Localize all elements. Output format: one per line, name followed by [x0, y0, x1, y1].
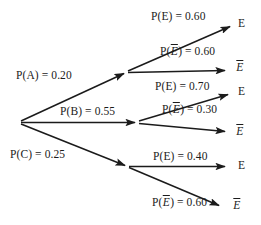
edge-label-branch-c: P(C) = 0.25: [10, 148, 65, 160]
terminal-node-ebar-1: E: [236, 61, 244, 73]
e-bar-glyph: E: [172, 103, 180, 115]
ebar-open-paren: P(: [162, 103, 172, 115]
terminal-node-e-3: E: [238, 159, 245, 171]
ebar-tail: ) = 0.60: [170, 196, 207, 208]
edge-b-to-ebar: [139, 124, 225, 132]
terminal-node-e-1: E: [238, 17, 245, 29]
e-bar-glyph: E: [233, 199, 241, 211]
edge-label-b-ebar: P(E) = 0.30: [162, 103, 217, 115]
e-bar-glyph: E: [162, 196, 170, 208]
probability-tree-diagram: P(A) = 0.20 P(B) = 0.55 P(C) = 0.25 P(E)…: [0, 0, 261, 225]
edge-label-branch-b: P(B) = 0.55: [60, 105, 115, 117]
e-bar-glyph: E: [236, 61, 244, 73]
edge-label-c-ebar: P(E) = 0.60: [152, 196, 207, 208]
edge-label-branch-a: P(A) = 0.20: [16, 69, 72, 81]
edge-label-a-e: P(E) = 0.60: [151, 10, 206, 22]
e-bar-glyph: E: [236, 125, 244, 137]
ebar-open-paren: P(: [152, 196, 162, 208]
terminal-node-e-2: E: [238, 85, 245, 97]
terminal-node-ebar-3: E: [233, 199, 241, 211]
ebar-tail: ) = 0.60: [178, 45, 215, 57]
edge-label-a-ebar: P(E) = 0.60: [160, 45, 215, 57]
ebar-open-paren: P(: [160, 45, 170, 57]
e-bar-glyph: E: [170, 45, 178, 57]
edge-a-to-ebar: [128, 71, 225, 73]
terminal-node-ebar-2: E: [236, 125, 244, 137]
edge-label-b-e: P(E) = 0.70: [155, 80, 210, 92]
ebar-tail: ) = 0.30: [180, 103, 217, 115]
tree-edges-svg: [0, 0, 261, 225]
edge-label-c-e: P(E) = 0.40: [153, 150, 208, 162]
